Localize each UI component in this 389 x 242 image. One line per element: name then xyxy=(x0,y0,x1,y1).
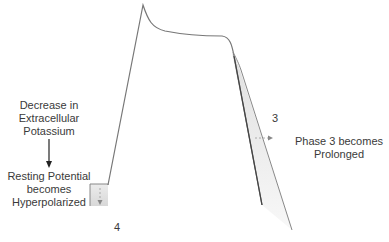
action-potential-diagram: Decrease in Extracellular Potassium Rest… xyxy=(0,0,389,242)
cause-line-1: Decrease in xyxy=(0,99,98,112)
phase3-label: 3 xyxy=(272,112,278,124)
cause-line-2: Extracellular xyxy=(0,112,98,125)
cause-line-3: Potassium xyxy=(0,125,98,138)
cause-effect-arrowhead-icon xyxy=(46,161,52,168)
prolonged-line-2: Prolonged xyxy=(292,148,386,161)
phase4-label: 4 xyxy=(114,221,120,233)
effect-line-3: Hyperpolarized xyxy=(0,196,98,209)
phase3-arrowhead-icon xyxy=(268,136,273,141)
action-potential-trace xyxy=(108,5,262,205)
effect-label: Resting Potential becomes Hyperpolarized xyxy=(0,170,98,209)
effect-line-2: becomes xyxy=(0,183,98,196)
cause-label: Decrease in Extracellular Potassium xyxy=(0,99,98,138)
prolonged-label: Phase 3 becomes Prolonged xyxy=(292,135,386,161)
prolonged-line-1: Phase 3 becomes xyxy=(292,135,386,148)
effect-line-1: Resting Potential xyxy=(0,170,98,183)
